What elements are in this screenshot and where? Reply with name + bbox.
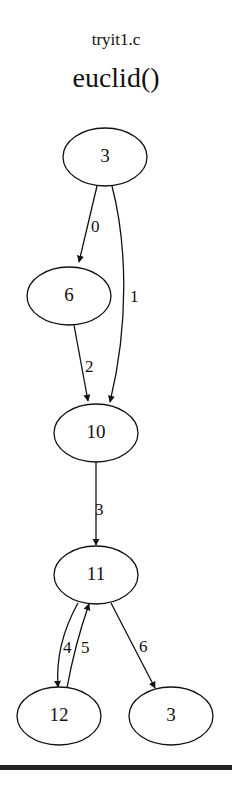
node-12[interactable]: 12: [17, 687, 101, 745]
edge-3: 3: [95, 462, 104, 545]
edge-6-label: 6: [139, 637, 148, 656]
node-12-label: 12: [50, 704, 69, 725]
edge-2-label: 2: [85, 357, 94, 376]
edge-2: 2: [74, 325, 94, 401]
edge-1-line: [110, 186, 124, 402]
control-flow-graph: 0 1 2 3 4 5 6 3 6 10 11 12: [0, 0, 232, 785]
node-10-label: 10: [87, 421, 106, 442]
edge-1-label: 1: [130, 287, 139, 306]
edge-4: 4: [58, 603, 78, 687]
edge-5-label: 5: [81, 638, 90, 657]
node-11[interactable]: 11: [54, 546, 138, 604]
node-top-3[interactable]: 3: [63, 128, 147, 186]
node-11-label: 11: [87, 563, 105, 584]
edge-1: 1: [110, 186, 139, 402]
edge-0-label: 0: [91, 217, 100, 236]
node-bottom-3[interactable]: 3: [129, 687, 213, 745]
edge-4-label: 4: [63, 638, 72, 657]
edge-3-label: 3: [95, 500, 104, 519]
edge-0: 0: [79, 186, 100, 262]
node-10[interactable]: 10: [54, 404, 138, 462]
node-top-3-label: 3: [100, 145, 110, 166]
node-6-label: 6: [64, 284, 74, 305]
edge-6: 6: [111, 603, 155, 688]
edge-6-line: [111, 603, 155, 688]
node-6[interactable]: 6: [27, 267, 111, 325]
node-bottom-3-label: 3: [166, 704, 176, 725]
bottom-divider: [0, 765, 232, 770]
